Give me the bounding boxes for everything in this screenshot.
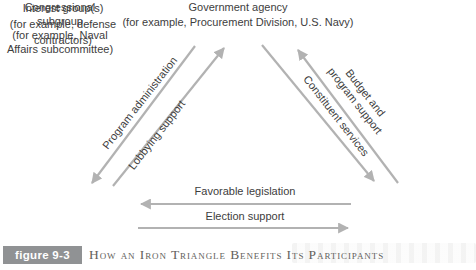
- election-support-label: Election support: [140, 210, 350, 223]
- favorable-legislation-label: Favorable legislation: [140, 185, 350, 198]
- congressional-subgroup-node: Congressional subgroup (for example, Nav…: [0, 0, 120, 56]
- iron-triangle-diagram: Government agency (for example, Procurem…: [0, 0, 476, 270]
- congressional-subgroup-example-line2: Affairs subcommittee): [0, 42, 120, 56]
- congressional-subgroup-example-line1: (for example, Naval: [0, 28, 120, 42]
- figure-caption: How an Iron Triangle Benefits Its Partic…: [89, 247, 384, 263]
- figure-number-badge: figure 9-3: [3, 246, 82, 264]
- congressional-subgroup-title-line2: subgroup: [0, 14, 120, 28]
- congressional-subgroup-title-line1: Congressional: [0, 0, 120, 14]
